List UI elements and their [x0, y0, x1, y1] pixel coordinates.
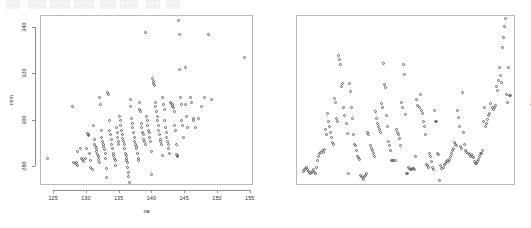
- data-point: [509, 94, 512, 97]
- data-point: [91, 168, 94, 171]
- data-point: [504, 17, 507, 20]
- x-tick-mark: [217, 190, 218, 193]
- data-point: [197, 117, 200, 120]
- data-point: [167, 143, 170, 146]
- data-point: [323, 148, 326, 151]
- data-point: [413, 168, 416, 171]
- data-point: [114, 159, 117, 162]
- data-point: [155, 110, 158, 113]
- data-point: [337, 54, 340, 57]
- data-point: [164, 126, 167, 129]
- y-tick-label: 340: [22, 22, 27, 31]
- data-point: [450, 152, 453, 155]
- data-point: [386, 125, 389, 128]
- data-point: [186, 126, 189, 129]
- data-point: [451, 149, 454, 152]
- data-point: [365, 172, 368, 175]
- data-point: [348, 82, 351, 85]
- data-point: [322, 151, 325, 154]
- data-point: [472, 156, 475, 159]
- data-point: [483, 106, 486, 109]
- plot-area-right: [296, 15, 515, 185]
- data-point: [385, 114, 388, 117]
- data-point: [499, 74, 502, 77]
- data-point: [148, 136, 151, 139]
- data-point: [406, 172, 409, 175]
- data-point: [461, 91, 464, 94]
- data-point: [165, 131, 168, 134]
- data-point: [460, 147, 463, 150]
- data-point: [174, 129, 177, 132]
- data-point: [358, 158, 361, 161]
- data-point: [76, 150, 79, 153]
- data-point: [103, 148, 106, 151]
- data-point: [340, 85, 343, 88]
- data-point: [458, 125, 461, 128]
- data-point: [423, 125, 426, 128]
- data-point: [210, 98, 213, 101]
- data-point: [105, 176, 108, 179]
- data-point: [85, 147, 88, 150]
- data-point: [132, 131, 135, 134]
- data-point: [108, 129, 111, 132]
- x-tick-mark: [53, 190, 54, 193]
- data-point: [108, 119, 111, 122]
- data-point: [349, 90, 352, 93]
- data-point: [184, 66, 187, 69]
- data-point: [181, 124, 184, 127]
- data-point: [117, 143, 120, 146]
- data-point: [374, 110, 377, 113]
- data-point: [200, 105, 203, 108]
- data-point: [129, 105, 132, 108]
- data-point: [400, 101, 403, 104]
- data-point: [448, 158, 451, 161]
- data-point: [161, 154, 164, 157]
- data-point: [142, 133, 145, 136]
- data-point: [476, 160, 479, 163]
- data-point: [107, 93, 110, 96]
- data-point: [156, 119, 159, 122]
- x-tick-label: 145: [180, 196, 189, 201]
- data-point: [84, 157, 87, 160]
- data-point: [314, 172, 317, 175]
- data-point: [455, 144, 458, 147]
- x-tick-label: 125: [48, 196, 57, 201]
- data-point: [119, 119, 122, 122]
- data-point: [116, 131, 119, 134]
- data-point: [135, 147, 138, 150]
- data-point: [398, 137, 401, 140]
- data-point: [333, 97, 336, 100]
- y-tick-label: 320: [22, 69, 27, 78]
- data-point: [173, 110, 176, 113]
- data-point: [194, 126, 197, 129]
- data-points-left: [41, 16, 252, 184]
- data-point: [427, 166, 430, 169]
- data-point: [146, 124, 149, 127]
- data-point: [149, 140, 152, 143]
- data-point: [157, 124, 160, 127]
- data-point: [157, 129, 160, 132]
- data-point: [88, 152, 91, 155]
- data-point: [328, 125, 331, 128]
- data-point: [324, 128, 327, 131]
- data-point: [180, 119, 183, 122]
- data-point: [161, 96, 164, 99]
- data-point: [421, 112, 424, 115]
- data-point: [457, 116, 460, 119]
- data-point: [501, 46, 504, 49]
- data-point: [422, 120, 425, 123]
- data-point: [381, 106, 384, 109]
- data-point: [463, 143, 466, 146]
- data-point: [338, 58, 341, 61]
- data-point: [146, 119, 149, 122]
- scatter-panel-osm-vs-na: 280300320340 125130135140145150155 osm n…: [0, 0, 265, 228]
- data-point: [347, 172, 350, 175]
- data-point: [127, 175, 130, 178]
- data-point: [354, 144, 357, 147]
- data-point: [500, 81, 503, 84]
- data-point: [243, 56, 246, 59]
- data-point: [477, 158, 480, 161]
- data-point: [435, 120, 438, 123]
- data-point: [315, 166, 318, 169]
- data-point: [325, 133, 328, 136]
